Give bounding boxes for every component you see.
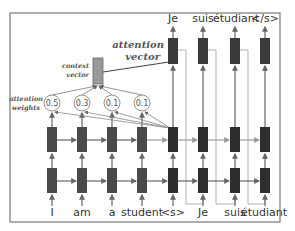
attention-weights-label-1: attention: [9, 95, 43, 103]
input-token-3: a: [109, 206, 116, 219]
input-token-8: étudiant: [241, 206, 288, 219]
attention-weight-circles: [44, 95, 150, 111]
attention-vector-label-2: vector: [125, 51, 161, 62]
input-token-1: I: [50, 206, 53, 219]
input-token-4: student: [121, 206, 164, 219]
context-vector-label-2: vector: [66, 71, 89, 79]
attention-weight-2: 0.3: [76, 99, 89, 108]
input-token-6: Je: [197, 206, 208, 219]
attention-vector-label-1: attention: [112, 39, 164, 50]
attention-weights-label-2: weights: [12, 104, 40, 112]
attention-diagram: 0.5 0.3 0.1 0.1 context vector attention…: [0, 0, 295, 231]
input-token-2: am: [73, 206, 90, 219]
attention-weight-4: 0.1: [136, 99, 149, 108]
output-token-4: </s>: [251, 12, 279, 25]
input-token-5: <s>: [161, 206, 185, 219]
context-vector-label-1: context: [62, 62, 89, 70]
attention-weight-1: 0.5: [46, 99, 59, 108]
context-to-attention-line: [103, 62, 169, 72]
attention-vector-row: [168, 38, 270, 64]
attention-weight-3: 0.1: [106, 99, 119, 108]
output-token-1: Je: [167, 12, 178, 25]
context-lines: [52, 86, 142, 95]
output-token-2: suis: [192, 12, 214, 25]
context-vector-box: [93, 58, 103, 84]
